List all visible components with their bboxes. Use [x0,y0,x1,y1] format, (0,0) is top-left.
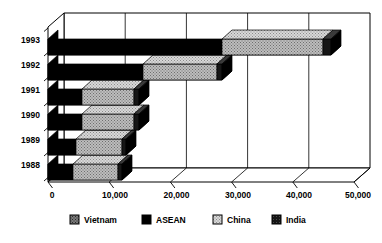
legend-item-china[interactable]: China [213,215,251,225]
legend-label-vietnam: Vietnam [84,215,117,225]
y-axis-labels: 1993 1992 1991 1990 1989 1988 [21,35,40,170]
legend-item-vietnam[interactable]: Vietnam [70,215,117,225]
x-tick-label: 0 [50,190,55,200]
y-axis-ticks [44,28,48,181]
china-swatch [213,215,222,224]
x-tick-label: 30,000 [225,190,251,200]
y-tick-label: 1989 [21,135,40,145]
x-tick-label: 10,000 [102,190,128,200]
x-tick-label: 40,000 [286,190,312,200]
india-swatch [272,215,281,224]
y-tick-label: 1993 [21,35,40,45]
legend-label-india: India [286,215,306,225]
chart-legend: Vietnam ASEAN China India [70,215,306,225]
x-axis-labels: 0 10,000 20,000 30,000 40,000 50,000 [50,190,372,200]
legend-label-china: China [227,215,251,225]
legend-item-india[interactable]: India [272,215,306,225]
x-tick-label: 20,000 [164,190,190,200]
x-tick-label: 50,000 [345,190,371,200]
bar-chart: 1993 1992 1991 1990 1989 1988 0 10,000 2… [0,0,382,243]
y-tick-label: 1988 [21,160,40,170]
x-axis-ticks [48,182,359,188]
asean-swatch [142,215,151,224]
legend-label-asean: ASEAN [156,215,186,225]
y-tick-label: 1991 [21,85,40,95]
legend-item-asean[interactable]: ASEAN [142,215,186,225]
y-tick-label: 1990 [21,110,40,120]
chart-container: 1993 1992 1991 1990 1989 1988 0 10,000 2… [0,0,382,243]
vietnam-swatch [70,215,79,224]
y-tick-label: 1992 [21,60,40,70]
